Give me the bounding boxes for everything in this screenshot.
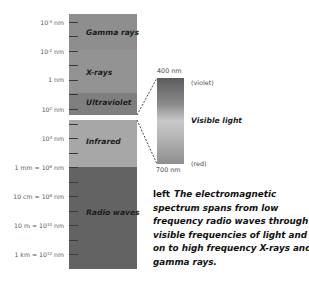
tick-major xyxy=(69,254,78,255)
tick-label: 10 cm = 108 nm xyxy=(13,192,64,201)
tick-label: 104 nm xyxy=(42,134,64,143)
tick-minor xyxy=(69,211,78,212)
band-label-gamma-rays: Gamma rays xyxy=(86,28,139,37)
tick-major xyxy=(69,167,78,168)
tick-label: 10 m = 1010 nm xyxy=(14,221,64,230)
band-label-radio-waves: Radio waves xyxy=(86,208,140,217)
tick-minor xyxy=(69,124,78,125)
tick-major xyxy=(69,196,78,197)
tick-major xyxy=(69,225,78,226)
tick-label: 10-4 nm xyxy=(40,18,64,27)
red-label: (red) xyxy=(191,160,206,168)
tick-label: 1 mm = 106 nm xyxy=(15,163,64,172)
band-label-x-rays: X-rays xyxy=(86,68,112,77)
band-label-ultraviolet: Ultraviolet xyxy=(86,98,131,107)
visible-light-label: Visible light xyxy=(191,116,242,125)
tick-major xyxy=(69,22,78,23)
tick-minor xyxy=(69,153,78,154)
caption-lead: left xyxy=(153,189,170,199)
visible-light-gradient-bar xyxy=(157,78,184,164)
tick-major xyxy=(69,51,78,52)
tick-label: 1 nm xyxy=(48,76,64,84)
tick-minor xyxy=(69,36,78,37)
tick-major xyxy=(69,80,78,81)
tick-minor xyxy=(69,182,78,183)
tick-label: 102 nm xyxy=(42,105,64,114)
tick-minor xyxy=(69,240,78,241)
tick-label: 10-2 nm xyxy=(40,47,64,56)
tick-minor xyxy=(69,94,78,95)
figure-caption: leftThe electromagnetic spectrum spans f… xyxy=(153,188,309,269)
tick-label: 1 km = 1012 nm xyxy=(14,250,64,259)
tick-major xyxy=(69,138,78,139)
band-label-infrared: Infrared xyxy=(86,137,121,146)
tick-minor xyxy=(69,65,78,66)
caption-text: The electromagnetic spectrum spans from … xyxy=(153,189,309,267)
band-radio-waves xyxy=(69,167,137,269)
wavelength-400nm-label: 400 nm xyxy=(157,67,182,75)
tick-major xyxy=(69,109,78,110)
violet-label: (violet) xyxy=(191,79,214,87)
wavelength-700nm-label: 700 nm xyxy=(156,166,181,174)
